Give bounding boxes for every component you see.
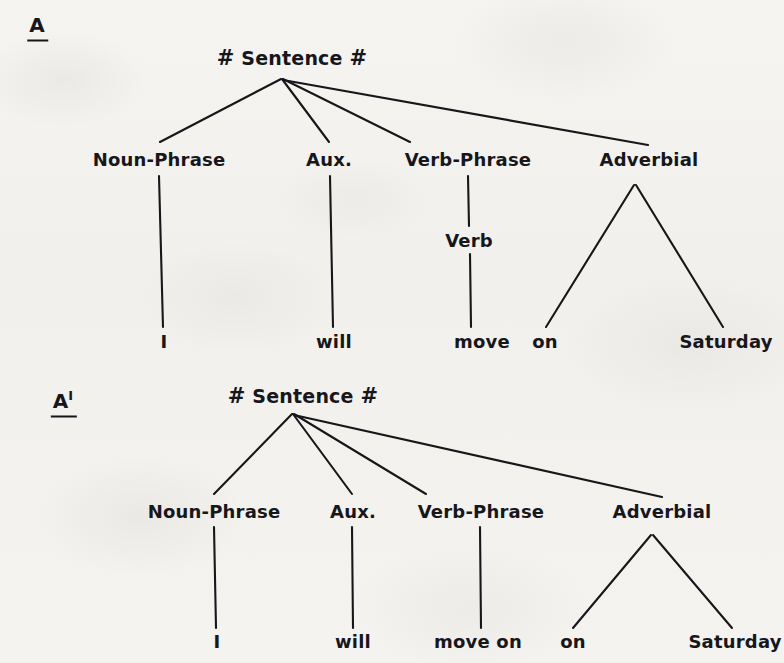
branch-ap-adv-to-on [573,535,651,628]
hash-right-icon: # [350,46,368,70]
branch-a-root-to-vp [283,79,410,142]
node-a-noun-phrase: Noun-Phrase [93,149,226,170]
node-a-verb-phrase: Verb-Phrase [405,149,532,170]
node-ap-root-text: Sentence [252,385,353,407]
figure-page: A # Sentence # Noun-Phrase Aux. Verb-Phr… [0,0,784,663]
node-ap-noun-phrase: Noun-Phrase [148,501,281,522]
tree-label-a: A [27,13,48,44]
terminal-ap-on: on [560,631,586,652]
hash-right-icon: # [361,384,379,408]
branch-a-adv-to-saturday [636,185,723,327]
branch-ap-aux-to-will [352,527,353,628]
terminal-ap-will: will [335,631,371,652]
branch-a-verb-to-move [470,254,471,327]
node-ap-aux: Aux. [330,501,376,522]
terminal-a-move: move [454,331,510,352]
node-ap-verb-phrase: Verb-Phrase [418,501,545,522]
branch-ap-adv-to-saturday [653,535,732,628]
branch-ap-vp-to-moveon [480,527,481,628]
terminal-ap-move-on: move on [434,631,522,652]
node-a-adverbial: Adverbial [600,149,699,170]
branch-a-root-to-aux [282,79,329,142]
tree-label-a-prime: AI [51,389,77,420]
branch-ap-np-to-i [214,527,216,628]
prime-mark-icon: I [68,388,73,403]
node-a-verb: Verb [445,230,493,251]
terminal-a-will: will [316,331,352,352]
branch-a-np-to-i [159,176,163,327]
tree-label-a-prime-text: A [53,389,68,413]
node-a-aux: Aux. [306,149,352,170]
tree-branch-lines [0,0,784,663]
terminal-a-on: on [532,331,558,352]
terminal-a-i: I [161,331,168,352]
node-a-root-sentence: # Sentence # [217,46,368,70]
branch-ap-root-to-np [214,414,292,494]
node-ap-adverbial: Adverbial [613,501,712,522]
branch-a-root-to-np [160,79,281,142]
hash-left-icon: # [228,384,246,408]
hash-left-icon: # [217,46,235,70]
tree-label-a-text: A [29,13,44,37]
branch-a-root-to-adv [283,80,648,145]
branch-ap-root-to-adv [294,415,662,497]
terminal-ap-saturday: Saturday [688,631,781,652]
branch-a-aux-to-will [330,176,333,327]
branch-a-adv-to-on [546,185,634,327]
node-ap-root-sentence: # Sentence # [228,384,379,408]
terminal-a-saturday: Saturday [679,331,772,352]
branch-ap-root-to-vp [294,414,426,494]
terminal-ap-i: I [214,631,221,652]
node-a-root-text: Sentence [241,47,342,69]
branch-a-vp-to-verb [468,176,469,226]
